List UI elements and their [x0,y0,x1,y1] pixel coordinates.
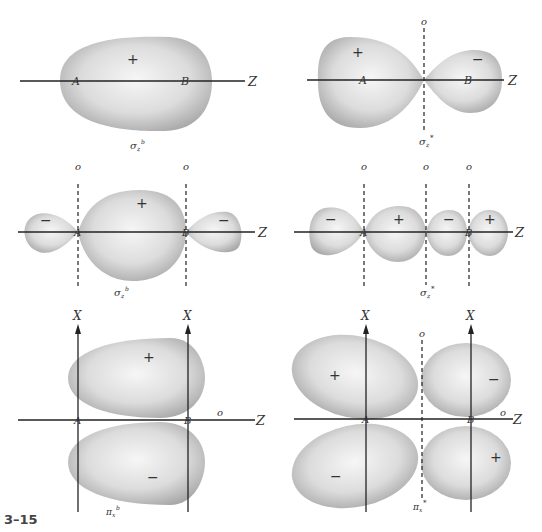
svg-text:Z: Z [255,413,266,428]
svg-text:X: X [465,309,475,323]
panel-pi-antibonding: X X o o + − − + A B Z π x * [284,309,523,519]
svg-text:z: z [426,292,431,299]
svg-text:−: − [330,468,342,484]
svg-text:A: A [358,74,367,87]
lobe-right [424,50,502,113]
panel-sigma-antibonding-p: o o o − + − + A B Z σ z * [294,161,525,299]
svg-text:−: − [40,212,52,228]
svg-text:o: o [466,161,472,172]
svg-text:−: − [472,51,484,67]
svg-text:−: − [325,211,337,227]
svg-text:b: b [141,138,145,145]
svg-text:Z: Z [257,225,268,240]
svg-text:Z: Z [507,73,518,88]
svg-text:B: B [466,414,474,425]
panel-pi-bonding: X X o + − A B Z π x b [18,309,266,518]
svg-text:*: * [423,499,427,507]
svg-text:+: + [329,367,341,383]
svg-text:o: o [361,161,367,172]
svg-text:+: + [136,195,148,211]
svg-text:A: A [73,227,81,238]
svg-text:Z: Z [514,225,525,240]
svg-text:b: b [125,285,129,292]
svg-text:o: o [75,161,81,172]
svg-text:*: * [431,285,435,293]
svg-text:−: − [147,469,159,485]
svg-text:o: o [500,407,506,418]
atom-b-label: B [180,75,189,88]
panel-sigma-bonding-p: o o − + − A B Z σ z b [18,161,268,299]
z-axis-label: Z [247,74,258,89]
svg-text:Z: Z [512,412,523,427]
lobe-lower [68,422,205,505]
svg-text:x: x [112,511,116,518]
svg-text:o: o [217,407,223,418]
lobe-lower-left [284,413,426,520]
mo-diagram: + A B Z σ z b o + − A B Z σ z * o o − + … [0,0,542,532]
svg-text:z: z [136,145,141,152]
figure-number: 3–15 [4,512,38,527]
svg-text:−: − [443,211,455,227]
svg-text:A: A [73,415,81,426]
lobe-upper [68,338,205,418]
svg-text:+: + [352,44,364,60]
atom-a-label: A [71,75,80,88]
svg-text:X: X [360,309,370,323]
svg-text:+: + [484,211,496,227]
svg-text:o: o [183,161,189,172]
svg-text:B: B [181,227,189,238]
panel-sigma-antibonding-s: o + − A B Z σ z * [307,16,518,148]
lobe-left [318,37,424,128]
panel-sigma-bonding-s: + A B Z σ z b [20,37,258,152]
lobe-center [78,190,186,281]
svg-text:o: o [419,328,425,339]
sign-plus: + [127,51,139,67]
svg-text:x: x [419,506,423,513]
svg-text:+: + [490,449,502,465]
svg-text:X: X [182,309,192,323]
svg-text:o: o [423,161,429,172]
svg-text:B: B [183,415,191,426]
svg-text:A: A [359,227,367,238]
lobe-upper-left [284,324,426,431]
x-axis-label: X [72,309,82,323]
svg-text:−: − [218,212,230,228]
svg-text:A: A [361,414,369,425]
svg-text:B: B [464,227,472,238]
svg-text:+: + [393,211,405,227]
svg-text:z: z [120,292,125,299]
svg-text:*: * [430,134,434,142]
svg-text:+: + [143,349,155,365]
svg-text:B: B [463,74,472,87]
svg-text:z: z [425,141,430,148]
svg-text:−: − [488,371,500,387]
node-label: o [421,16,427,27]
svg-text:b: b [116,504,120,511]
